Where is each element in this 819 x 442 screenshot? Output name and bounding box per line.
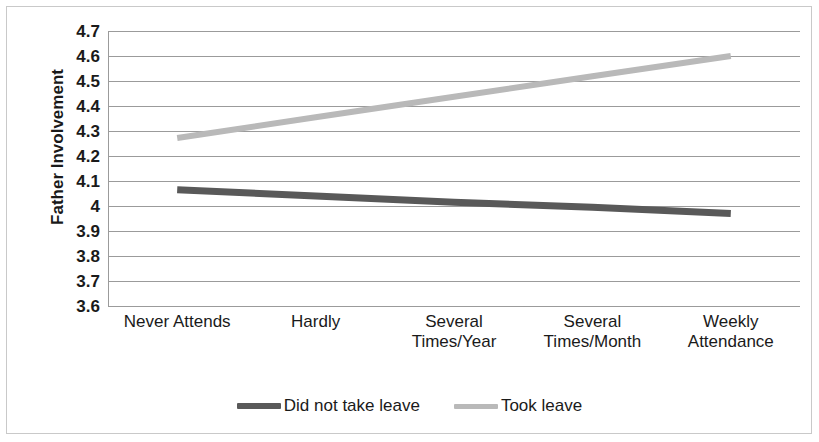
legend-swatch-icon: [454, 404, 498, 409]
y-axis-tick-labels: 4.74.64.54.44.34.24.143.93.83.73.6: [45, 31, 100, 306]
x-axis-tick-label: SeveralTimes/Month: [523, 312, 661, 372]
legend-swatch-icon: [237, 403, 281, 409]
y-axis-tick-label: 4: [91, 198, 100, 215]
y-axis-tick-label: 3.7: [76, 273, 100, 290]
gridlines: [108, 32, 800, 307]
chart-container: Father Involvement 4.74.64.54.44.34.24.1…: [0, 0, 819, 442]
x-axis-tick-labels: Never AttendsHardlySeveralTimes/YearSeve…: [108, 312, 800, 372]
series-line: [177, 56, 731, 138]
y-axis-tick-label: 4.5: [76, 73, 100, 90]
legend-entry[interactable]: Took leave: [454, 396, 582, 416]
plot-area: [108, 31, 800, 306]
plot-svg: [108, 31, 800, 307]
x-axis-tick-label-line: Weekly: [664, 312, 798, 332]
x-axis-tick-label: SeveralTimes/Year: [385, 312, 523, 372]
series-line: [177, 190, 731, 214]
x-axis-tick-label-line: Never Attends: [110, 312, 244, 332]
x-axis-tick-label-line: Times/Year: [387, 332, 521, 352]
series-lines: [177, 56, 731, 214]
x-axis-tick-label-line: Times/Month: [525, 332, 659, 352]
y-axis-tick-label: 4.6: [76, 48, 100, 65]
y-axis-tick-label: 3.6: [76, 298, 100, 315]
y-axis-tick-label: 4.7: [76, 23, 100, 40]
legend-label: Did not take leave: [284, 396, 420, 416]
x-axis-tick-label-line: Several: [387, 312, 521, 332]
y-axis-tick-label: 4.2: [76, 148, 100, 165]
x-axis-tick-label-line: Several: [525, 312, 659, 332]
x-axis-tick-label-line: Hardly: [248, 312, 382, 332]
legend-entry[interactable]: Did not take leave: [237, 396, 420, 416]
y-axis-tick-label: 4.4: [76, 98, 100, 115]
x-axis-ticks: [109, 31, 801, 307]
y-axis-tick-label: 4.1: [76, 173, 100, 190]
chart-legend: Did not take leaveTook leave: [0, 396, 819, 416]
x-axis-tick-label-line: Attendance: [664, 332, 798, 352]
x-axis-tick-label: WeeklyAttendance: [662, 312, 800, 372]
y-axis-tick-label: 4.3: [76, 123, 100, 140]
y-axis-tick-label: 3.8: [76, 248, 100, 265]
x-axis-tick-label: Never Attends: [108, 312, 246, 372]
legend-label: Took leave: [501, 396, 582, 416]
y-axis-tick-label: 3.9: [76, 223, 100, 240]
x-axis-tick-label: Hardly: [246, 312, 384, 372]
